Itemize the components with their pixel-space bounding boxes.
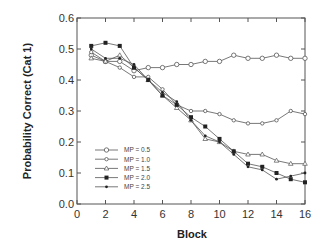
open-marker — [232, 119, 235, 122]
legend-label: MP = 0.5 — [124, 146, 150, 153]
legend-label: MP = 2.0 — [124, 174, 150, 181]
open-marker — [132, 75, 135, 78]
dot-marker — [275, 178, 278, 181]
open-circle-marker — [289, 56, 293, 60]
y-tick-label: 0.1 — [59, 167, 74, 179]
square-marker — [303, 180, 307, 184]
open-circle-marker — [260, 56, 264, 60]
open-marker — [90, 50, 93, 53]
dot-marker — [304, 172, 307, 175]
open-marker — [204, 109, 207, 112]
x-tick-label: 12 — [242, 208, 254, 220]
open-circle-marker — [217, 59, 221, 63]
open-marker — [303, 112, 306, 115]
y-tick-label: 0.0 — [59, 198, 74, 210]
series-layer — [89, 41, 307, 185]
dot-marker — [232, 153, 235, 156]
x-tick-label: 6 — [159, 208, 165, 220]
open-circle-marker — [303, 56, 307, 60]
y-tick-label: 0.5 — [59, 43, 74, 55]
square-marker — [203, 125, 207, 129]
open-marker — [105, 158, 108, 161]
triangle-marker — [117, 53, 122, 57]
open-marker — [161, 88, 164, 91]
dot-marker — [118, 57, 121, 60]
legend: MP = 0.5MP = 1.0MP = 1.5MP = 2.0MP = 2.5 — [95, 146, 150, 190]
open-circle-marker — [118, 59, 122, 63]
open-marker — [218, 112, 221, 115]
legend-item: MP = 0.5 — [95, 146, 150, 153]
open-circle-marker — [232, 53, 236, 57]
square-marker — [275, 171, 279, 175]
series-line — [91, 55, 305, 70]
open-circle-marker — [189, 62, 193, 66]
x-tick-label: 14 — [270, 208, 282, 220]
square-marker — [289, 177, 293, 181]
legend-label: MP = 1.5 — [124, 165, 150, 172]
y-tick-label: 0.2 — [59, 136, 74, 148]
dot-marker — [90, 48, 93, 51]
dot-marker — [104, 57, 107, 60]
dot-marker — [147, 79, 150, 82]
legend-item: MP = 2.0 — [95, 174, 150, 181]
x-tick-label: 2 — [102, 208, 108, 220]
x-tick-label: 10 — [213, 208, 225, 220]
legend-label: MP = 1.0 — [124, 156, 150, 163]
open-marker — [275, 119, 278, 122]
y-tick-label: 0.3 — [59, 105, 74, 117]
dot-marker — [289, 175, 292, 178]
open-circle-marker — [246, 56, 250, 60]
open-circle-marker — [104, 148, 108, 152]
dot-marker — [161, 91, 164, 94]
open-circle-marker — [203, 59, 207, 63]
legend-item: MP = 2.5 — [95, 183, 150, 190]
series-1-5 — [89, 53, 307, 166]
dot-marker — [175, 100, 178, 103]
y-tick-label: 0.4 — [59, 74, 74, 86]
open-marker — [261, 122, 264, 125]
open-circle-marker — [175, 62, 179, 66]
square-marker — [104, 41, 108, 45]
square-marker — [118, 44, 122, 48]
y-tick-label: 0.6 — [59, 12, 74, 24]
dot-marker — [133, 63, 136, 66]
x-tick-label: 16 — [299, 208, 311, 220]
legend-item: MP = 1.5 — [95, 165, 150, 172]
dot-marker — [247, 165, 250, 168]
open-circle-marker — [160, 65, 164, 69]
square-marker — [105, 176, 109, 180]
open-circle-marker — [146, 65, 150, 69]
open-marker — [289, 109, 292, 112]
dot-marker — [105, 185, 108, 188]
dot-marker — [261, 169, 264, 172]
square-marker — [161, 94, 165, 98]
square-marker — [89, 44, 93, 48]
line-chart: 0.00.10.20.30.40.50.6 0246810121416 MP =… — [0, 0, 323, 248]
open-circle-marker — [274, 53, 278, 57]
square-marker — [260, 165, 264, 169]
y-axis-label: Probability Correct (Cat 1) — [21, 43, 33, 180]
x-tick-label: 0 — [74, 208, 80, 220]
square-marker — [218, 137, 222, 141]
legend-item: MP = 1.0 — [95, 156, 150, 163]
open-marker — [118, 66, 121, 69]
dot-marker — [204, 134, 207, 137]
dot-marker — [218, 141, 221, 144]
x-tick-label: 4 — [131, 208, 137, 220]
x-tick-label: 8 — [188, 208, 194, 220]
dot-marker — [190, 119, 193, 122]
open-marker — [189, 109, 192, 112]
legend-label: MP = 2.5 — [124, 183, 150, 190]
y-axis: 0.00.10.20.30.40.50.6 — [59, 12, 305, 210]
series-2-5 — [90, 48, 307, 181]
open-marker — [246, 122, 249, 125]
x-axis-label: Block — [177, 228, 208, 240]
